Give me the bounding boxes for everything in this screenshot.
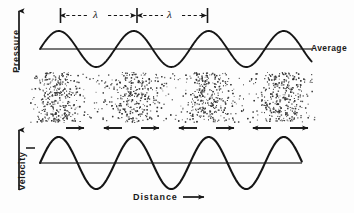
wavelength-label-1: λ	[93, 8, 98, 20]
pressure-axis-label: Pressure	[11, 21, 21, 81]
particle-density-band	[30, 72, 315, 123]
average-line-label: Average	[311, 43, 347, 53]
wavelength-markers	[61, 8, 208, 23]
velocity-axis-label: Velocity	[17, 140, 27, 202]
velocity-wave-panel	[40, 137, 302, 189]
diagram-canvas	[0, 0, 354, 213]
wavelength-label-2: λ	[167, 8, 172, 20]
distance-axis-label: Distance	[133, 192, 178, 202]
sound-wave-diagram: Pressure Velocity Average Distance λ λ	[0, 0, 354, 213]
pressure-wave-panel	[40, 31, 312, 67]
